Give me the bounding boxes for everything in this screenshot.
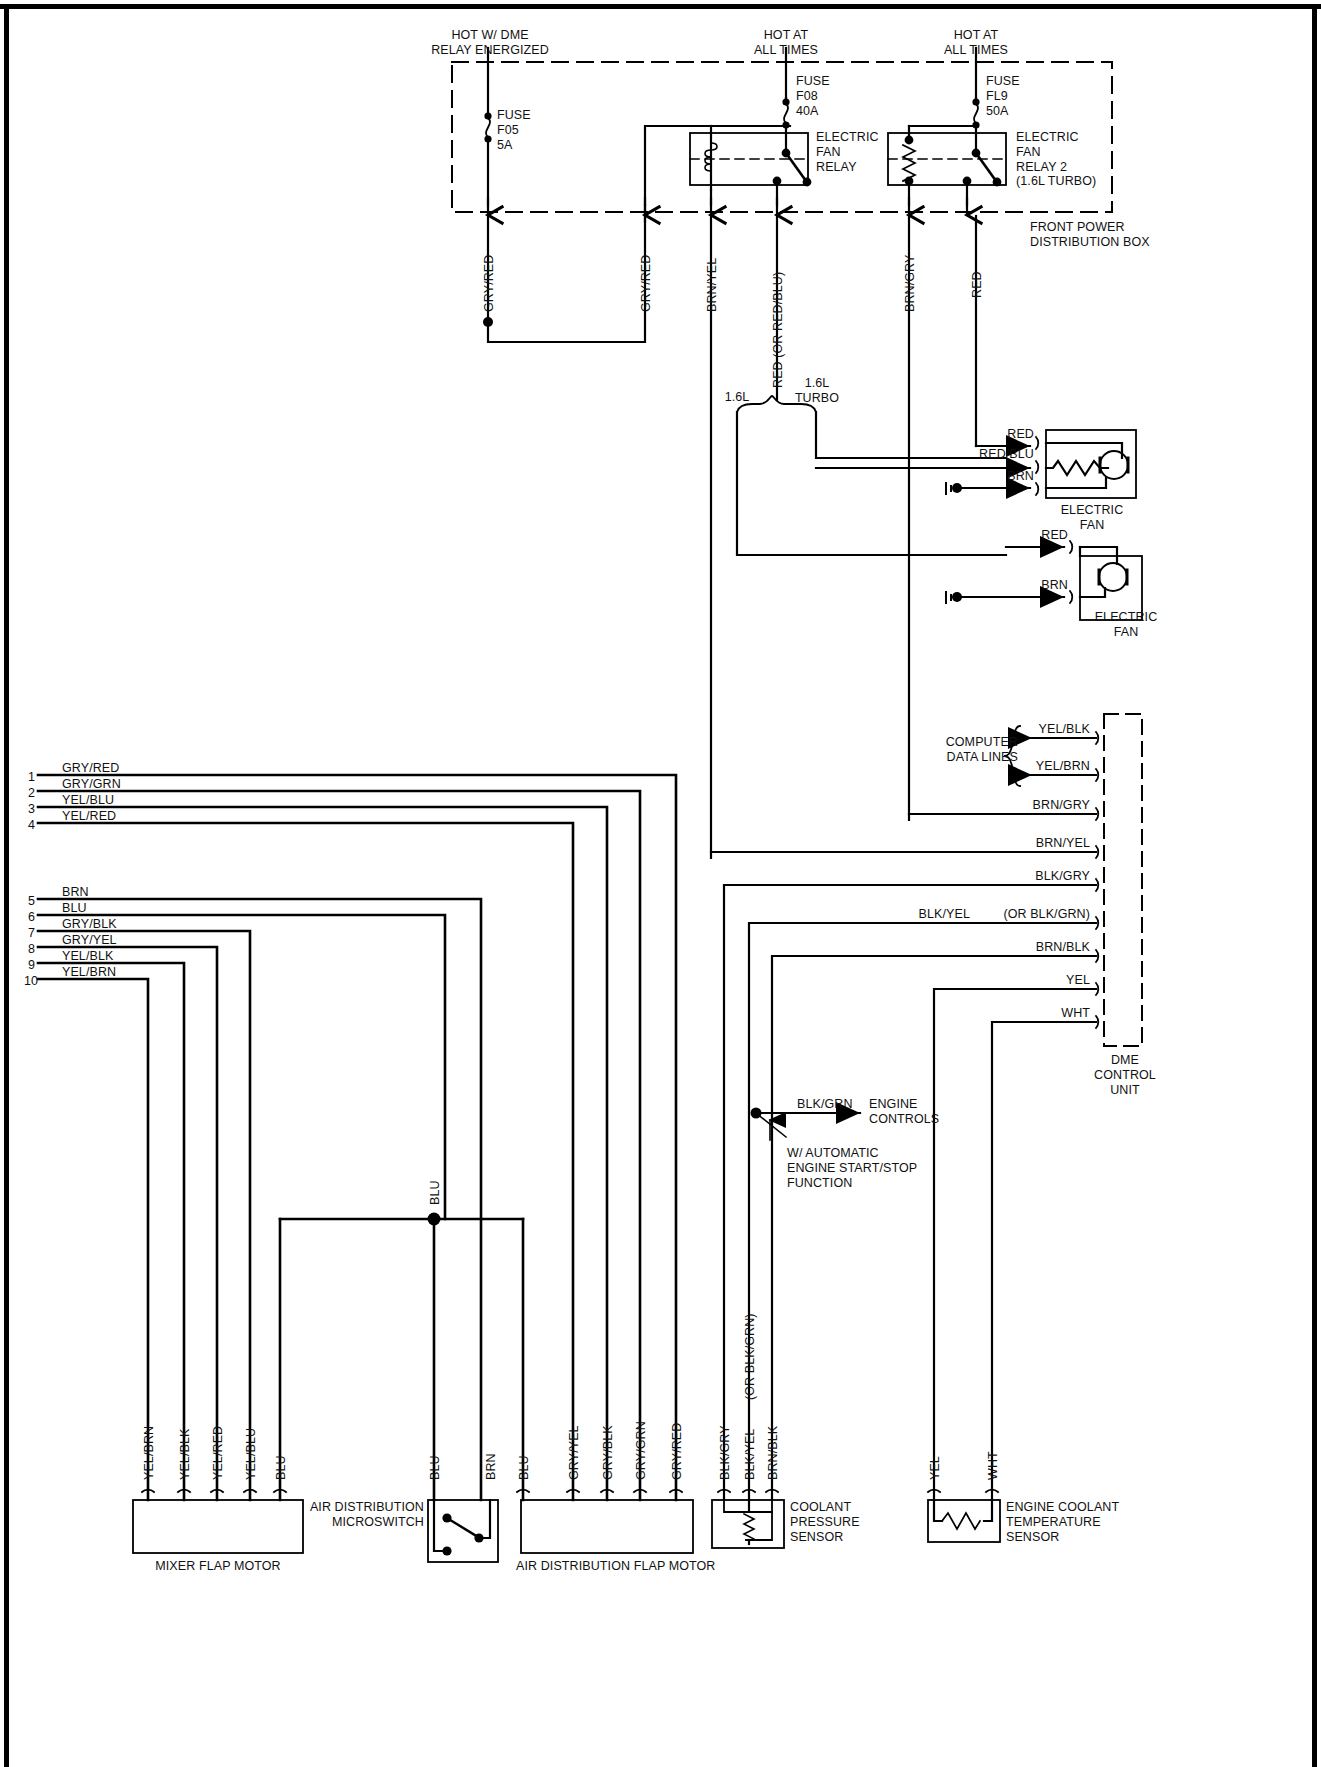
wire-label-gry-red-1: GRY/RED bbox=[482, 255, 496, 312]
pin-number-1: 1 bbox=[28, 770, 35, 784]
dme-wire-brn-yel-label: BRN/YEL bbox=[976, 836, 1090, 851]
wiring-vector-layer bbox=[0, 0, 1321, 1767]
pin-color-2: GRY/GRN bbox=[62, 777, 121, 792]
engine-controls-wire-label: BLK/GRN bbox=[797, 1097, 853, 1112]
pin-number-7: 7 bbox=[28, 926, 35, 940]
cps-terminal-blk-yel-alt-label: (OR BLK/GRN) bbox=[743, 1313, 757, 1400]
pin-color-3: YEL/BLU bbox=[62, 793, 114, 808]
pin-color-9: YEL/BLK bbox=[62, 949, 113, 964]
pin-number-8: 8 bbox=[28, 942, 35, 956]
wire-label-brn-gry: BRN/GRY bbox=[903, 255, 917, 312]
dme-control-unit-caption: DMECONTROLUNIT bbox=[1070, 1053, 1180, 1097]
power-source-all-times-1-label: HOT ATALL TIMES bbox=[706, 28, 866, 58]
air-distribution-microswitch-caption: AIR DISTRIBUTIONMICROSWITCH bbox=[300, 1500, 424, 1530]
adfm-terminal-gry-grn-label: GRY/GRN bbox=[634, 1421, 648, 1480]
microswitch-terminal-brn-label: BRN bbox=[484, 1453, 498, 1480]
pin-number-3: 3 bbox=[28, 802, 35, 816]
pin-number-6: 6 bbox=[28, 910, 35, 924]
option-16l-label: 1.6L bbox=[702, 390, 772, 405]
electric-fan-relay-2-label: ELECTRICFANRELAY 2(1.6L TURBO) bbox=[1016, 130, 1096, 189]
engine-coolant-temperature-sensor-caption: ENGINE COOLANTTEMPERATURESENSOR bbox=[1006, 1500, 1119, 1544]
mixer-flap-motor-caption: MIXER FLAP MOTOR bbox=[128, 1559, 308, 1574]
pin-color-4: YEL/RED bbox=[62, 809, 116, 824]
wire-label-red-or-red-blu: RED (OR RED/BLU) bbox=[771, 272, 785, 388]
mixer-terminal-yel-blk-label: YEL/BLK bbox=[178, 1429, 192, 1480]
adfm-terminal-gry-red-label: GRY/RED bbox=[670, 1423, 684, 1480]
dme-wire-yel-blk-label: YEL/BLK bbox=[976, 722, 1090, 737]
blu-junction-label: BLU bbox=[428, 1180, 442, 1205]
pin-number-4: 4 bbox=[28, 818, 35, 832]
wire-label-red-fl9: RED bbox=[970, 271, 984, 298]
dme-wire-brn-gry-label: BRN/GRY bbox=[976, 798, 1090, 813]
pin-color-6: BLU bbox=[62, 901, 87, 916]
pin-color-1: GRY/RED bbox=[62, 761, 119, 776]
fuse-fl9-label: FUSEFL950A bbox=[986, 74, 1020, 118]
cps-terminal-blk-yel-label: BLK/YEL bbox=[743, 1429, 757, 1480]
wiring-diagram-sheet: HOT W/ DMERELAY ENERGIZED HOT ATALL TIME… bbox=[0, 0, 1321, 1767]
engine-controls-label: ENGINECONTROLS bbox=[869, 1097, 939, 1127]
pin-number-10: 10 bbox=[24, 974, 38, 988]
power-source-all-times-2-label: HOT ATALL TIMES bbox=[896, 28, 1056, 58]
dme-wire-blk-gry-label: BLK/GRY bbox=[976, 869, 1090, 884]
mixer-terminal-yel-brn-label: YEL/BRN bbox=[142, 1426, 156, 1480]
pin-number-9: 9 bbox=[28, 958, 35, 972]
fan2-terminal-brn-label: BRN bbox=[984, 578, 1068, 593]
coolant-pressure-sensor-caption: COOLANTPRESSURESENSOR bbox=[790, 1500, 860, 1544]
ects-terminal-yel-label: YEL bbox=[928, 1456, 942, 1480]
air-distribution-flap-motor-caption: AIR DISTRIBUTION FLAP MOTOR bbox=[516, 1559, 698, 1574]
dme-wire-blk-yel-label: BLK/YEL bbox=[890, 907, 970, 922]
pin-color-7: GRY/BLK bbox=[62, 917, 117, 932]
pin-color-5: BRN bbox=[62, 885, 89, 900]
pin-number-5: 5 bbox=[28, 894, 35, 908]
fan1-terminal-red-blu-label: RED/BLU bbox=[930, 447, 1034, 462]
auto-start-stop-note: W/ AUTOMATICENGINE START/STOPFUNCTION bbox=[787, 1146, 917, 1190]
power-source-dme-label: HOT W/ DMERELAY ENERGIZED bbox=[390, 28, 590, 58]
pin-number-2: 2 bbox=[28, 786, 35, 800]
microswitch-terminal-blu-label: BLU bbox=[428, 1455, 442, 1480]
option-16l-turbo-label: 1.6LTURBO bbox=[777, 376, 857, 406]
dme-wire-brn-blk-label: BRN/BLK bbox=[976, 940, 1090, 955]
fan1-terminal-brn-label: BRN bbox=[950, 469, 1034, 484]
dme-wire-wht-label: WHT bbox=[976, 1006, 1090, 1021]
cps-terminal-blk-gry-label: BLK/GRY bbox=[718, 1425, 732, 1480]
fuse-f05-label: FUSEF055A bbox=[497, 108, 531, 152]
wire-label-brn-yel: BRN/YEL bbox=[705, 258, 719, 312]
pin-color-10: YEL/BRN bbox=[62, 965, 116, 980]
wire-label-gry-red-2: GRY/RED bbox=[639, 255, 653, 312]
adfm-terminal-blu-label: BLU bbox=[517, 1455, 531, 1480]
fan2-terminal-red-label: RED bbox=[984, 528, 1068, 543]
front-power-distribution-box-label: FRONT POWERDISTRIBUTION BOX bbox=[1030, 220, 1150, 250]
mixer-terminal-yel-blu-label: YEL/BLU bbox=[244, 1428, 258, 1480]
pin-color-8: GRY/YEL bbox=[62, 933, 117, 948]
adfm-terminal-gry-blk-label: GRY/BLK bbox=[601, 1425, 615, 1480]
ects-terminal-wht-label: WHT bbox=[986, 1451, 1000, 1480]
cps-terminal-brn-blk-label: BRN/BLK bbox=[766, 1426, 780, 1480]
electric-fan-relay-label: ELECTRICFANRELAY bbox=[816, 130, 879, 174]
dme-wire-yel-label: YEL bbox=[976, 973, 1090, 988]
fuse-f08-label: FUSEF0840A bbox=[796, 74, 830, 118]
adfm-terminal-gry-yel-label: GRY/YEL bbox=[567, 1425, 581, 1480]
mixer-terminal-yel-red-label: YEL/RED bbox=[211, 1426, 225, 1480]
fan1-terminal-red-label: RED bbox=[950, 427, 1034, 442]
dme-wire-blk-yel-alt-label: (OR BLK/GRN) bbox=[960, 907, 1090, 922]
dme-wire-yel-brn-label: YEL/BRN bbox=[976, 759, 1090, 774]
electric-fan-2-caption: ELECTRICFAN bbox=[1078, 610, 1174, 640]
mixer-terminal-blu-label: BLU bbox=[274, 1455, 288, 1480]
